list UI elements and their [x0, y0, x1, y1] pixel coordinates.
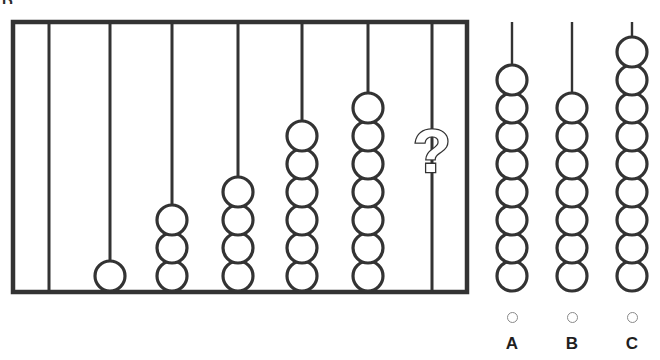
option-bead — [497, 93, 527, 123]
bead — [287, 261, 317, 291]
option-abacus-A — [497, 22, 527, 292]
option-bead — [617, 37, 647, 67]
option-bead — [557, 205, 587, 235]
option-bead — [617, 233, 647, 263]
option-bead — [497, 177, 527, 207]
bead — [287, 149, 317, 179]
option-bead — [497, 261, 527, 291]
answer-radio-B[interactable] — [567, 312, 578, 323]
bead — [157, 261, 187, 291]
answer-label-B[interactable]: B — [552, 334, 592, 354]
question-number-label: D. — [2, 0, 17, 4]
option-bead — [497, 205, 527, 235]
option-bead — [617, 149, 647, 179]
option-bead — [497, 149, 527, 179]
bead — [353, 149, 383, 179]
option-bead — [617, 93, 647, 123]
option-bead — [557, 261, 587, 291]
bead — [353, 177, 383, 207]
option-bead — [557, 121, 587, 151]
option-bead — [557, 149, 587, 179]
bead — [223, 205, 253, 235]
abacus-rods — [49, 22, 432, 292]
answer-radio-A[interactable] — [507, 312, 518, 323]
option-bead — [557, 93, 587, 123]
bead — [223, 233, 253, 263]
answer-option-abacuses — [497, 22, 647, 292]
option-bead — [557, 177, 587, 207]
bead — [287, 121, 317, 151]
option-bead — [497, 233, 527, 263]
answer-label-C[interactable]: C — [612, 334, 652, 354]
answer-label-A[interactable]: A — [492, 334, 532, 354]
bead — [223, 261, 253, 291]
option-abacus-B — [557, 22, 587, 292]
bead — [157, 205, 187, 235]
bead — [287, 233, 317, 263]
bead — [353, 233, 383, 263]
option-bead — [497, 65, 527, 95]
option-bead — [617, 177, 647, 207]
bead — [223, 177, 253, 207]
question-canvas: D. ? ABC — [0, 0, 660, 360]
answer-radio-C[interactable] — [627, 312, 638, 323]
option-bead — [557, 233, 587, 263]
option-bead — [617, 261, 647, 291]
bead — [287, 205, 317, 235]
option-bead — [617, 205, 647, 235]
option-abacus-C — [617, 22, 647, 292]
option-bead — [617, 121, 647, 151]
question-mark-icon: ? — [413, 116, 451, 185]
abacus-rod-2 — [95, 22, 125, 292]
bead — [353, 205, 383, 235]
bead — [95, 261, 125, 291]
bead — [353, 93, 383, 123]
abacus-illustration: ? — [0, 0, 660, 360]
option-bead — [497, 121, 527, 151]
abacus-rod-5 — [287, 22, 317, 292]
bead — [353, 121, 383, 151]
abacus-rod-6 — [353, 22, 383, 292]
abacus-rod-4 — [223, 22, 253, 292]
option-bead — [617, 65, 647, 95]
bead — [353, 261, 383, 291]
bead — [287, 177, 317, 207]
bead — [157, 233, 187, 263]
question-mark-glyph: ? — [413, 116, 451, 185]
abacus-rod-3 — [157, 22, 187, 292]
